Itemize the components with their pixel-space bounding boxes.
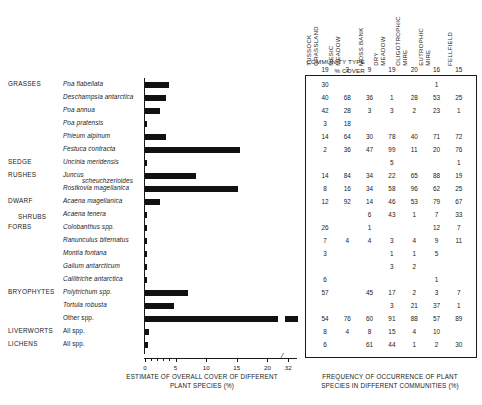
table-cell-r2-c5: 23 xyxy=(433,107,440,114)
x-tick-minor-1 xyxy=(151,359,152,361)
bar-7 xyxy=(145,173,196,179)
table-cell-r19-c2: 8 xyxy=(368,328,372,335)
table-cell-r11-c2: 1 xyxy=(368,224,372,231)
x-tick-5 xyxy=(176,359,177,362)
group-label-bryophytes: BRYOPHYTES xyxy=(8,289,55,295)
percent-cover-value-3: 19 xyxy=(388,66,395,73)
table-cell-r8-c5: 62 xyxy=(433,185,440,192)
group-label-lichens: LICHENS xyxy=(8,341,38,347)
x-tick-15 xyxy=(237,359,238,362)
table-cell-r16-c2: 45 xyxy=(366,289,373,296)
species-label-20: All spp. xyxy=(63,341,85,347)
bar-0 xyxy=(145,82,169,88)
x-tick-32 xyxy=(288,359,289,362)
table-cell-r10-c2: 6 xyxy=(368,211,372,218)
bar-2 xyxy=(145,108,160,114)
column-header-3: DRY MEADOW xyxy=(373,37,387,66)
column-header-6: FELLFIELD xyxy=(447,32,454,66)
table-cell-r19-c3: 15 xyxy=(388,328,395,335)
species-label-12: Ranunculus biternatus xyxy=(63,237,129,243)
table-cell-r7-c2: 34 xyxy=(366,172,373,179)
bar-3 xyxy=(145,121,147,127)
table-cell-r1-c2: 36 xyxy=(366,94,373,101)
table-caption: FREQUENCY OF OCCURRENCE OF PLANT SPECIES… xyxy=(295,373,482,390)
bar-11 xyxy=(145,225,147,231)
table-cell-r19-c0: 8 xyxy=(323,328,327,335)
group-label-sedge: SEDGE xyxy=(8,159,32,165)
table-cell-r11-c6: 7 xyxy=(457,224,461,231)
bar-1 xyxy=(145,95,166,101)
species-label-11: Colobanthus spp. xyxy=(63,224,114,230)
table-cell-r9-c3: 46 xyxy=(388,198,395,205)
table-cell-r8-c1: 16 xyxy=(344,185,351,192)
table-cell-r5-c4: 11 xyxy=(411,146,418,153)
table-cell-r4-c1: 64 xyxy=(344,133,351,140)
x-tick-minor-2 xyxy=(157,359,158,361)
x-tick-0 xyxy=(145,359,146,362)
table-cell-r13-c3: 1 xyxy=(390,250,394,257)
column-header-holder-1: MESIC MEADOW xyxy=(342,0,352,66)
table-cell-r16-c4: 2 xyxy=(412,289,416,296)
table-cell-r9-c5: 79 xyxy=(433,198,440,205)
species-label-8: Rostkovia magellanica xyxy=(63,185,129,191)
table-cell-r5-c6: 76 xyxy=(455,146,462,153)
figure-root: GRASSESSEDGERUSHESDWARFSHRUBSFORBSBRYOPH… xyxy=(0,0,482,405)
table-cell-r12-c3: 3 xyxy=(390,237,394,244)
bar-18-segment-1 xyxy=(145,316,278,322)
column-header-5: EUTROPHIC MIRE xyxy=(418,28,432,66)
table-cell-r14-c4: 2 xyxy=(412,263,416,270)
table-cell-r1-c0: 40 xyxy=(321,94,328,101)
table-cell-r12-c2: 4 xyxy=(368,237,372,244)
species-label-6: Uncinia meridensis xyxy=(63,159,119,165)
table-cell-r8-c4: 96 xyxy=(411,185,418,192)
group-label-shrubs: SHRUBS xyxy=(18,214,46,220)
bar-18-segment-2 xyxy=(285,316,298,322)
percent-cover-value-6: 15 xyxy=(455,66,462,73)
bar-8 xyxy=(145,186,238,192)
table-cell-r2-c1: 28 xyxy=(344,107,351,114)
table-cell-r4-c2: 30 xyxy=(366,133,373,140)
table-cell-r1-c6: 25 xyxy=(455,94,462,101)
table-cell-r20-c5: 2 xyxy=(435,341,439,348)
table-cell-r18-c4: 88 xyxy=(411,315,418,322)
table-cell-r7-c0: 14 xyxy=(321,172,328,179)
table-cell-r18-c1: 76 xyxy=(344,315,351,322)
table-cell-r17-c4: 21 xyxy=(411,302,418,309)
x-tick-label-15: 15 xyxy=(233,364,240,371)
table-cell-r9-c2: 14 xyxy=(366,198,373,205)
percent-cover-value-1: 3 xyxy=(346,66,350,73)
bar-19 xyxy=(145,329,149,335)
percent-cover-value-5: 16 xyxy=(433,66,440,73)
table-cell-r18-c2: 60 xyxy=(366,315,373,322)
table-cell-r9-c4: 53 xyxy=(411,198,418,205)
chart-x-axis xyxy=(144,358,297,359)
table-cell-r10-c6: 33 xyxy=(455,211,462,218)
table-cell-r19-c1: 4 xyxy=(346,328,350,335)
table-cell-r20-c2: 61 xyxy=(366,341,373,348)
bar-12 xyxy=(145,238,147,244)
x-tick-label-5: 5 xyxy=(174,364,177,371)
table-cell-r12-c4: 4 xyxy=(412,237,416,244)
species-label-13: Montia fontana xyxy=(63,250,107,256)
x-tick-10 xyxy=(206,359,207,362)
table-cell-r13-c0: 3 xyxy=(323,250,327,257)
table-cell-r4-c3: 78 xyxy=(388,133,395,140)
table-cell-r13-c4: 1 xyxy=(412,250,416,257)
column-header-holder-5: EUTROPHIC MIRE xyxy=(432,0,442,66)
bar-10 xyxy=(145,212,147,218)
table-cell-r17-c5: 37 xyxy=(433,302,440,309)
bar-9 xyxy=(145,199,160,205)
chart-x-axis-caption: ESTIMATE OF OVERALL COVER OF DIFFERENT P… xyxy=(122,373,282,390)
species-label-17: Tortula robusta xyxy=(63,302,107,308)
bar-6 xyxy=(145,160,147,166)
table-cell-r20-c0: 6 xyxy=(323,341,327,348)
table-cell-r12-c6: 11 xyxy=(455,237,462,244)
table-cell-r3-c1: 18 xyxy=(344,120,351,127)
table-cell-r17-c3: 3 xyxy=(390,302,394,309)
percent-cover-value-0: 19 xyxy=(321,66,328,73)
species-label-2: Poa annua xyxy=(63,107,95,113)
group-label-forbs: FORBS xyxy=(8,224,32,230)
table-cell-r20-c3: 44 xyxy=(388,341,395,348)
table-cell-r4-c4: 40 xyxy=(411,133,418,140)
table-cell-r20-c6: 30 xyxy=(455,341,462,348)
